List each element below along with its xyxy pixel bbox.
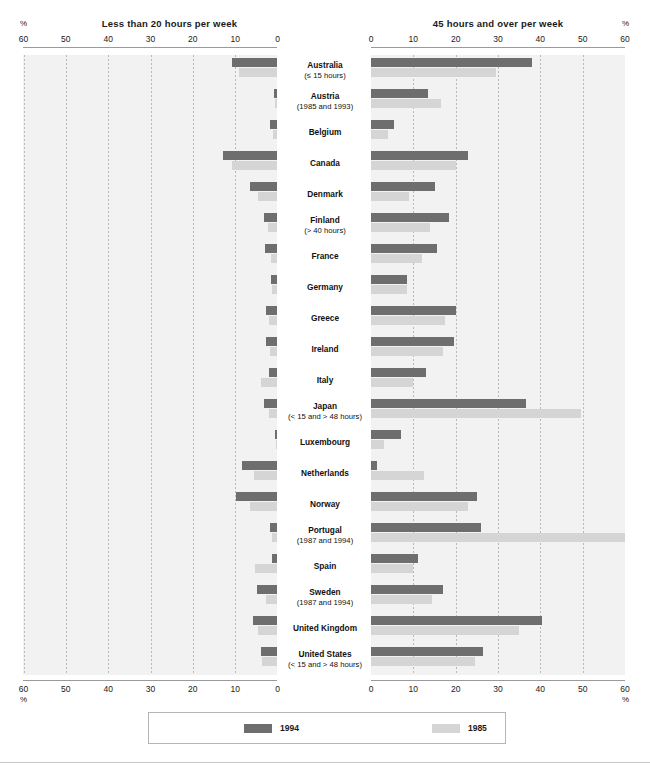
tick-right-bottom-20: 20: [451, 684, 460, 694]
tick-left-top-0: 0: [275, 34, 280, 44]
bar-right-1994-denmark: [371, 182, 435, 191]
footer-rule: [0, 762, 650, 763]
legend-swatch-1985: [432, 724, 460, 733]
tick-left-top-20: 20: [188, 34, 197, 44]
tick-right-bottom-0: 0: [369, 684, 374, 694]
bar-right-1994-ireland: [371, 337, 454, 346]
right-percent-symbol-bottom: %: [622, 695, 629, 704]
bar-right-1994-france: [371, 244, 437, 253]
left-panel-title: Less than 20 hours per week: [62, 18, 277, 29]
axis-line-right-bottom: [371, 680, 625, 681]
tick-left-bottom-50: 50: [61, 684, 70, 694]
country-name: Ireland: [311, 344, 338, 354]
country-note: (1987 and 1994): [271, 598, 379, 609]
tick-right-top-20: 20: [451, 34, 460, 44]
tick-left-top-40: 40: [103, 34, 112, 44]
gridline-right-20: [456, 55, 457, 675]
country-note: (> 40 hours): [271, 226, 379, 237]
legend-item-1994: 1994: [244, 723, 299, 733]
country-label-denmark: Denmark: [271, 189, 379, 200]
bar-right-1985-united-kingdom: [371, 626, 519, 635]
tick-right-bottom-60: 60: [620, 684, 629, 694]
gridline-left-20: [193, 55, 194, 675]
tick-right-top-0: 0: [369, 34, 374, 44]
country-label-japan: Japan(< 15 and > 48 hours): [271, 401, 379, 422]
country-label-united-states: United States(< 15 and > 48 hours): [271, 649, 379, 670]
country-label-germany: Germany: [271, 282, 379, 293]
country-label-finland: Finland(> 40 hours): [271, 215, 379, 236]
country-note: (< 15 and > 48 hours): [271, 412, 379, 423]
bar-right-1994-portugal: [371, 523, 481, 532]
country-name: Portugal: [308, 525, 342, 535]
country-label-united-kingdom: United Kingdom: [271, 623, 379, 634]
country-label-netherlands: Netherlands: [271, 468, 379, 479]
tick-left-bottom-20: 20: [188, 684, 197, 694]
country-name: Austria: [311, 91, 340, 101]
chart-legend: 19941985: [148, 712, 506, 744]
country-label-australia: Australia(≤ 15 hours): [271, 60, 379, 81]
tick-left-bottom-10: 10: [230, 684, 239, 694]
bar-right-1985-finland: [371, 223, 430, 232]
gridline-left-50: [66, 55, 67, 675]
country-name: Italy: [317, 375, 334, 385]
country-note: (< 15 and > 48 hours): [271, 660, 379, 671]
country-label-france: France: [271, 251, 379, 262]
bar-right-1994-finland: [371, 213, 449, 222]
country-name: Japan: [313, 401, 337, 411]
country-note: (1985 and 1993): [271, 102, 379, 113]
tick-right-top-40: 40: [536, 34, 545, 44]
country-name: Germany: [307, 282, 343, 292]
right-panel-title: 45 hours and over per week: [400, 18, 596, 29]
gridline-right-10: [413, 55, 414, 675]
country-name: Denmark: [307, 189, 343, 199]
country-label-belgium: Belgium: [271, 127, 379, 138]
country-label-austria: Austria(1985 and 1993): [271, 91, 379, 112]
tick-right-bottom-10: 10: [409, 684, 418, 694]
left-plot-area: [23, 55, 277, 675]
bar-right-1985-sweden: [371, 595, 432, 604]
legend-swatch-1994: [244, 724, 272, 733]
country-label-spain: Spain: [271, 561, 379, 572]
gridline-right-30: [498, 55, 499, 675]
bar-right-1985-canada: [371, 161, 456, 170]
right-percent-symbol: %: [622, 19, 629, 28]
tick-left-bottom-0: 0: [275, 684, 280, 694]
country-name: United States: [298, 649, 351, 659]
country-label-luxembourg: Luxembourg: [271, 437, 379, 448]
bar-right-1994-united-kingdom: [371, 616, 542, 625]
bar-right-1985-norway: [371, 502, 468, 511]
tick-right-bottom-30: 30: [493, 684, 502, 694]
bar-left-1994-canada: [223, 151, 277, 160]
country-note: (≤ 15 hours): [271, 71, 379, 82]
country-label-greece: Greece: [271, 313, 379, 324]
axis-line-left-bottom: [23, 680, 277, 681]
bar-right-1994-australia: [371, 58, 532, 67]
tick-left-bottom-30: 30: [146, 684, 155, 694]
country-name: Spain: [314, 561, 337, 571]
bar-right-1985-ireland: [371, 347, 443, 356]
legend-item-1985: 1985: [432, 723, 487, 733]
country-name: Sweden: [309, 587, 340, 597]
country-name: Greece: [311, 313, 339, 323]
bar-right-1994-sweden: [371, 585, 443, 594]
country-label-canada: Canada: [271, 158, 379, 169]
tick-right-bottom-50: 50: [578, 684, 587, 694]
legend-label-1994: 1994: [280, 723, 299, 733]
country-label-italy: Italy: [271, 375, 379, 386]
bar-right-1994-austria: [371, 89, 428, 98]
country-name: Belgium: [309, 127, 342, 137]
tick-left-top-30: 30: [146, 34, 155, 44]
gridline-right-50: [583, 55, 584, 675]
tick-left-top-10: 10: [230, 34, 239, 44]
bar-right-1994-japan: [371, 399, 526, 408]
tick-right-top-10: 10: [409, 34, 418, 44]
legend-label-1985: 1985: [468, 723, 487, 733]
bar-right-1985-united-states: [371, 657, 475, 666]
gridline-left-40: [108, 55, 109, 675]
axis-line-right-top: [371, 47, 625, 48]
left-percent-symbol: %: [20, 19, 27, 28]
country-name: Finland: [310, 215, 340, 225]
bar-right-1985-greece: [371, 316, 445, 325]
country-name: France: [311, 251, 338, 261]
axis-line-left-top: [23, 47, 277, 48]
